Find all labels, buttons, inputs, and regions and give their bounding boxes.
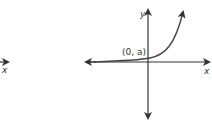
exponential-graph: x x y (0, a) bbox=[0, 0, 212, 126]
y-axis-label: y bbox=[139, 9, 146, 19]
x-axis-label: x bbox=[203, 66, 210, 76]
y-intercept-label: (0, a) bbox=[122, 47, 146, 57]
left-x-axis-label: x bbox=[1, 65, 8, 75]
